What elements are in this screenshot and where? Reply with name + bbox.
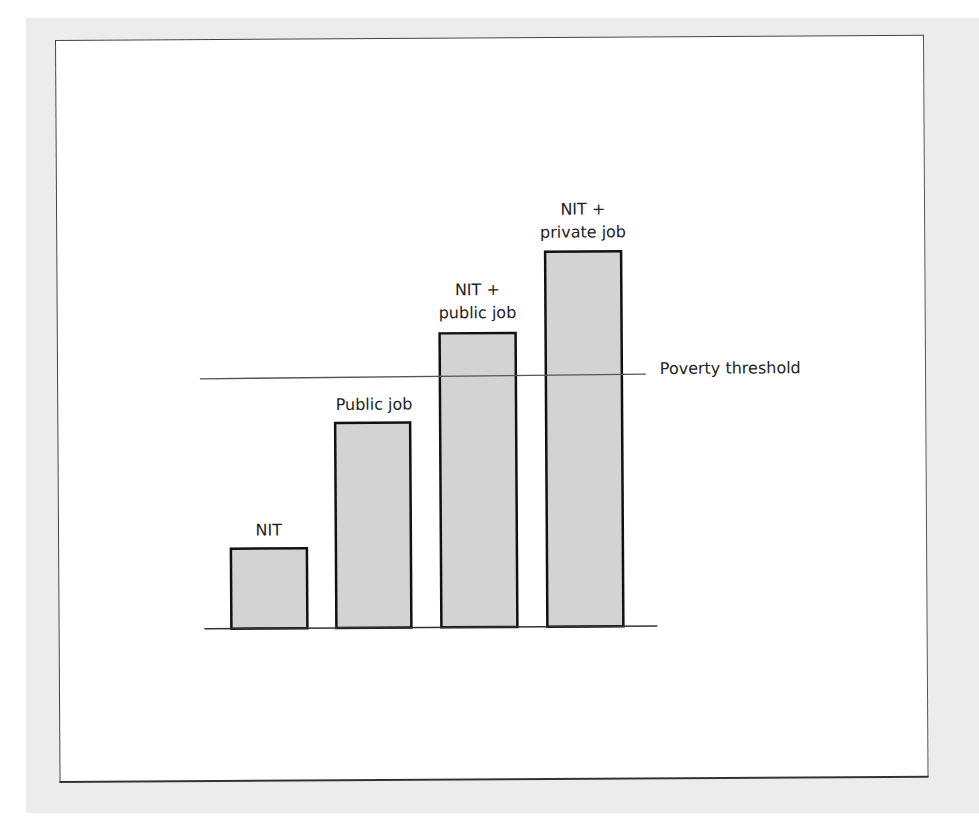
- bar-nit-private-job: [545, 251, 623, 626]
- bar-label-nit-public-job-line2: public job: [439, 303, 517, 322]
- bar-label-nit: NIT: [255, 520, 282, 539]
- poverty-threshold-label: Poverty threshold: [660, 358, 801, 378]
- bar-nit: [231, 548, 307, 628]
- bar-label-nit-private-job-line2: private job: [540, 222, 626, 242]
- bar-label-nit-private-job-line1: NIT +: [560, 199, 605, 218]
- bar-label-nit-public-job-line1: NIT +: [455, 280, 500, 299]
- bar-label-public-job: Public job: [336, 395, 413, 414]
- bar-public-job: [335, 423, 411, 628]
- bar-chart: NIT Public job NIT + public job NIT + pr…: [0, 0, 979, 817]
- bar-nit-public-job: [440, 333, 518, 627]
